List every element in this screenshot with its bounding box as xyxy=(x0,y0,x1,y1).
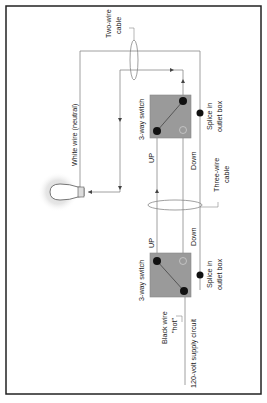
label-two-wire-cable: cable xyxy=(114,17,123,34)
label-switch-bottom: 3-way switch xyxy=(137,260,146,301)
label-three-wire-cable: cable xyxy=(222,166,231,183)
label-down-bottom: Down xyxy=(189,228,198,246)
label-splice-bottom: Splice in xyxy=(205,261,214,288)
label-black-wire: Black wire xyxy=(160,311,169,344)
label-up-top: UP xyxy=(147,153,156,163)
label-splice-top-2: outlet box xyxy=(215,100,224,132)
label-hot: "hot" xyxy=(170,317,179,333)
label-switch-top: 3-way switch xyxy=(137,99,146,140)
label-splice-top: Splice in xyxy=(205,103,214,130)
label-splice-bottom-2: outlet box xyxy=(215,258,224,290)
label-three-wire: Three-wire xyxy=(212,158,221,192)
splice-bottom xyxy=(197,272,204,279)
splice-top xyxy=(197,110,204,117)
three-way-switch-bottom xyxy=(150,253,191,297)
wiring-diagram: Two-wire cable White wire (neutral) 3-wa… xyxy=(0,0,267,403)
three-way-switch-top xyxy=(150,95,191,138)
label-supply: 120-volt supply circuit xyxy=(189,319,198,388)
label-up-bottom: UP xyxy=(147,238,156,248)
label-two-wire: Two-wire xyxy=(104,9,113,38)
label-down-top: Down xyxy=(189,152,198,170)
label-white-wire: White wire (neutral) xyxy=(70,104,79,166)
